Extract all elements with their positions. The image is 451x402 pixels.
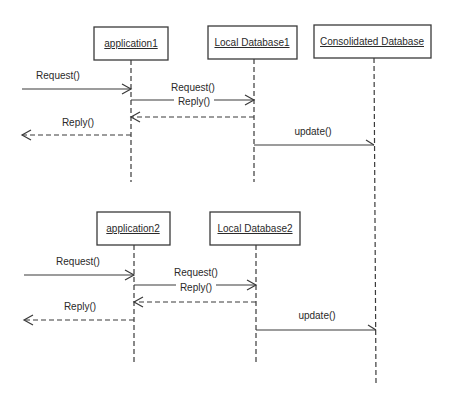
message-label: Reply() — [178, 96, 210, 107]
message-label: Reply() — [180, 282, 212, 293]
object-local-database2: Local Database2 — [210, 212, 300, 245]
message-reply-from-local-database2: Reply() — [134, 282, 256, 307]
object-label: application1 — [104, 38, 158, 49]
half-arrowhead-icon — [366, 140, 374, 145]
message-label: Request() — [171, 82, 215, 93]
message-label: Request() — [56, 256, 100, 267]
message-label: update() — [298, 310, 335, 321]
message-update-from-local-database2: update() — [256, 310, 376, 330]
object-application2: application2 — [97, 212, 170, 245]
object-local-database1: Local Database1 — [208, 26, 297, 59]
message-request-to-application2: Request() — [24, 256, 134, 280]
message-request-to-application1: Request() — [22, 70, 131, 94]
message-label: Request() — [36, 70, 80, 81]
message-label: Request() — [174, 267, 218, 278]
message-label: update() — [294, 126, 331, 137]
message-reply-from-application1: Reply() — [22, 117, 131, 140]
message-update-from-local-database1: update() — [254, 126, 374, 145]
message-reply-from-application2: Reply() — [24, 301, 134, 325]
lifeline-consolidated-database — [374, 58, 376, 383]
object-application1: application1 — [94, 27, 168, 60]
message-label: Reply() — [62, 117, 94, 128]
half-arrowhead-icon — [368, 325, 376, 330]
object-consolidated-database: Consolidated Database — [314, 25, 431, 58]
object-label: Local Database2 — [217, 223, 292, 234]
object-label: Local Database1 — [214, 37, 289, 48]
object-label: application2 — [106, 223, 160, 234]
message-label: Reply() — [64, 301, 96, 312]
sequence-diagram: application1 Local Database1 Consolidate… — [0, 0, 451, 402]
object-label: Consolidated Database — [320, 36, 424, 47]
